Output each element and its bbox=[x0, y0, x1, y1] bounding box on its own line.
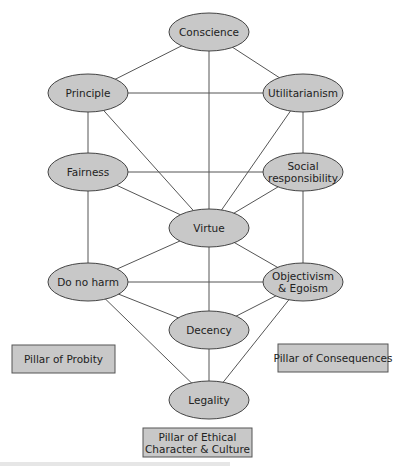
node-label: Social bbox=[287, 160, 318, 172]
node-utilitarianism: Utilitarianism bbox=[263, 74, 343, 112]
node-do-no-harm: Do no harm bbox=[48, 263, 128, 301]
node-conscience: Conscience bbox=[169, 13, 249, 51]
node-label: Utilitarianism bbox=[268, 87, 338, 99]
node-label: Legality bbox=[188, 394, 229, 406]
node-label: Objectivism bbox=[272, 270, 334, 282]
node-label: Decency bbox=[186, 324, 231, 336]
node-label: Do no harm bbox=[57, 276, 119, 288]
node-objectivism-egoism: Objectivism& Egoism bbox=[263, 263, 343, 301]
pillar-label: Character & Culture bbox=[145, 443, 250, 455]
cropped-caption bbox=[0, 462, 230, 466]
node-label: Fairness bbox=[67, 166, 110, 178]
node-decency: Decency bbox=[169, 311, 249, 349]
node-fairness: Fairness bbox=[48, 153, 128, 191]
node-label: Virtue bbox=[193, 222, 224, 234]
node-social-responsibility: Socialresponsibility bbox=[263, 153, 343, 191]
pillar-label: Pillar of Ethical bbox=[159, 431, 237, 443]
node-label: responsibility bbox=[268, 172, 338, 184]
node-principle: Principle bbox=[48, 74, 128, 112]
node-label: Conscience bbox=[179, 26, 239, 38]
node-virtue: Virtue bbox=[169, 209, 249, 247]
ethics-pillars-diagram: ConsciencePrincipleUtilitarianismFairnes… bbox=[0, 0, 399, 466]
pillar-label: Pillar of Probity bbox=[24, 353, 103, 365]
node-legality: Legality bbox=[169, 381, 249, 419]
pillar-label: Pillar of Consequences bbox=[274, 352, 393, 364]
pillar-ethical-character: Pillar of EthicalCharacter & Culture bbox=[143, 428, 252, 457]
pillar-probity: Pillar of Probity bbox=[12, 345, 115, 373]
node-label: Principle bbox=[66, 87, 111, 99]
node-label: & Egoism bbox=[278, 282, 328, 294]
pillar-consequences: Pillar of Consequences bbox=[274, 344, 393, 372]
